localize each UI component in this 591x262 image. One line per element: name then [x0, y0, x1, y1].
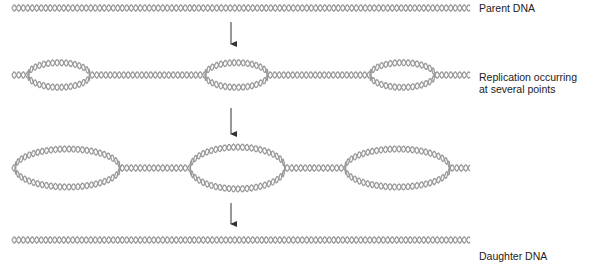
stage1-bubble2-bottom-strand-a — [370, 75, 435, 90]
stage1-bubble0-bottom-strand-b — [28, 74, 90, 90]
parent-dna-label: Parent DNA — [479, 2, 535, 14]
replication-label: Replication occurring at several points — [479, 71, 577, 95]
replication-label-line2: at several points — [479, 83, 577, 95]
stage1-bubble1-top-strand-b — [205, 60, 268, 76]
stage1-bubble2-top-strand-b — [370, 60, 435, 75]
stage2-bubble1-top-strand-a — [190, 144, 285, 170]
dna-strands — [12, 5, 470, 243]
daughter-dna-label: Daughter DNA — [479, 250, 547, 262]
replication-label-line1: Replication occurring — [479, 71, 577, 83]
stage2-bubble1-bottom-strand-b — [190, 166, 285, 192]
